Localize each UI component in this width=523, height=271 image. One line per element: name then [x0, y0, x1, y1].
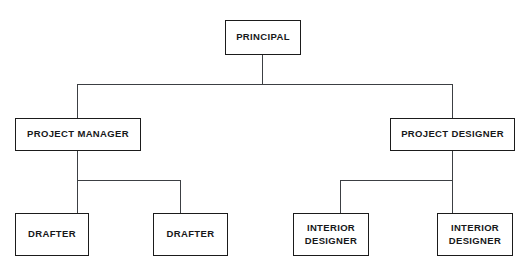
connector-project-manager-stem — [77, 151, 78, 180]
connector-project-manager-bus — [77, 180, 181, 181]
node-interior-designer-1-label: INTERIOR DESIGNER — [305, 222, 357, 247]
node-project-manager: PROJECT MANAGER — [15, 118, 141, 151]
node-principal: PRINCIPAL — [225, 20, 301, 55]
connector-level2-bus — [77, 84, 453, 85]
connector-project-designer-bus — [340, 180, 453, 181]
node-interior-designer-2-label: INTERIOR DESIGNER — [449, 222, 501, 247]
node-interior-designer-2: INTERIOR DESIGNER — [437, 213, 513, 256]
node-drafter-1: DRAFTER — [15, 213, 89, 256]
connector-project-manager-to-drafter-2 — [180, 180, 181, 213]
connector-principal-to-project-manager — [77, 84, 78, 118]
node-drafter-2-label: DRAFTER — [167, 228, 215, 241]
node-project-manager-label: PROJECT MANAGER — [27, 128, 129, 141]
connector-project-designer-stem — [452, 151, 453, 180]
node-drafter-2: DRAFTER — [153, 213, 228, 256]
connector-project-designer-to-interior-designer-2 — [452, 180, 453, 213]
node-drafter-1-label: DRAFTER — [28, 228, 76, 241]
node-project-designer: PROJECT DESIGNER — [390, 118, 515, 151]
connector-project-manager-to-drafter-1 — [77, 180, 78, 213]
node-interior-designer-1: INTERIOR DESIGNER — [293, 213, 369, 256]
node-project-designer-label: PROJECT DESIGNER — [401, 128, 504, 141]
connector-project-designer-to-interior-designer-1 — [340, 180, 341, 213]
org-chart: PRINCIPAL PROJECT MANAGER PROJECT DESIGN… — [0, 0, 523, 271]
node-principal-label: PRINCIPAL — [236, 31, 290, 44]
connector-principal-to-project-designer — [452, 84, 453, 118]
connector-principal-stem — [262, 55, 263, 84]
